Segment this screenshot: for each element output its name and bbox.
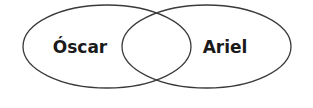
set-ariel-label: Ariel (203, 37, 248, 57)
venn-diagram: Óscar Ariel (0, 0, 313, 108)
set-oscar-label: Óscar (53, 36, 108, 57)
